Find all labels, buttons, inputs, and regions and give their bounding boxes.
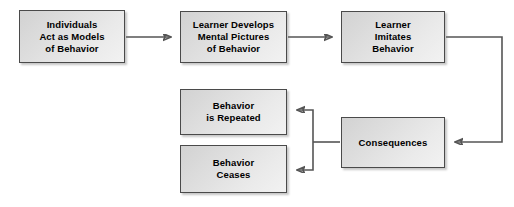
node-label: Consequences: [356, 137, 431, 149]
connector-imitates-to-consequences: [446, 37, 502, 142]
node-learner-develops-mental-pictures: Learner Develops Mental Pictures of Beha…: [180, 11, 287, 63]
node-consequences: Consequences: [341, 117, 445, 168]
node-label: Learner Develops Mental Pictures of Beha…: [190, 19, 277, 55]
node-label: Learner Imitates Behavior: [369, 19, 416, 55]
node-label: Individuals Act as Models of Behavior: [36, 19, 107, 55]
node-label: Behavior is Repeated: [203, 100, 263, 124]
node-learner-imitates-behavior: Learner Imitates Behavior: [341, 11, 445, 63]
connector-consequences-to-repeated: [297, 110, 313, 142]
node-behavior-is-repeated: Behavior is Repeated: [180, 89, 287, 135]
connector-consequences-to-ceases: [297, 142, 313, 170]
node-behavior-ceases: Behavior Ceases: [180, 145, 287, 193]
node-individuals-act-as-models: Individuals Act as Models of Behavior: [19, 10, 125, 63]
node-label: Behavior Ceases: [210, 157, 257, 181]
flowchart-diagram: Individuals Act as Models of Behavior Le…: [0, 0, 514, 207]
